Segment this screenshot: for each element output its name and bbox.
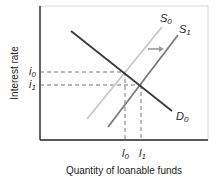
loanable-funds-chart: S0 S1 D0 i0 i1 l0 l1 Quantity of loanabl… (0, 0, 220, 183)
tick-l0: l0 (122, 147, 129, 161)
tick-i1: i1 (29, 78, 36, 92)
label-s0: S0 (160, 12, 172, 26)
y-axis-title: Interest rate (9, 46, 20, 100)
tick-l1: l1 (139, 147, 146, 161)
shift-arrow-icon (148, 46, 164, 52)
demand-curve-d0 (71, 31, 172, 111)
tick-i0: i0 (29, 65, 36, 79)
label-d0: D0 (176, 110, 189, 124)
label-s1: S1 (179, 23, 191, 37)
x-axis-title: Quantity of loanable funds (66, 165, 182, 176)
